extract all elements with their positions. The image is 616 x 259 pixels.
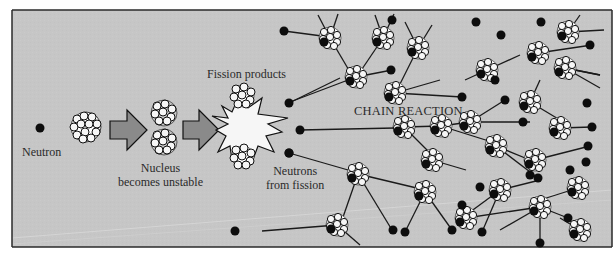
neutron-icon: [389, 226, 398, 235]
neutron-icon: [458, 201, 467, 210]
neutron-icon: [588, 123, 597, 132]
neutron-icon: [583, 99, 592, 108]
split-nucleus-icon: [567, 176, 589, 199]
neutron-icon: [476, 183, 485, 192]
neutron-icon: [537, 18, 546, 27]
neutrons-from-line2: from fission: [266, 178, 324, 192]
split-nucleus-icon: [393, 115, 415, 138]
nucleus-label-line1: Nucleus: [118, 161, 203, 175]
fission-products-label: Fission products: [207, 67, 286, 81]
fission-neutron-icon: [285, 149, 294, 158]
split-nucleus-icon: [527, 41, 549, 64]
neutron-icon: [478, 228, 487, 237]
neutron-icon: [388, 16, 397, 25]
neutron-icon: [497, 31, 506, 40]
split-nucleus-icon: [372, 26, 394, 49]
split-nucleus-icon: [524, 148, 546, 171]
split-nucleus-icon: [557, 20, 579, 43]
neutron-icon: [458, 93, 467, 102]
neutron-icon: [586, 41, 595, 50]
split-nucleus-icon: [384, 81, 406, 104]
neutron-icon: [526, 171, 535, 180]
split-nucleus-icon: [519, 90, 541, 113]
neutron-icon: [387, 66, 396, 75]
neutron-icon: [584, 142, 593, 151]
neutron-label: Neutron: [22, 145, 61, 159]
neutron-icon: [519, 118, 528, 127]
neutrons-from-fission-label: Neutrons from fission: [266, 164, 324, 192]
split-nucleus-icon: [414, 180, 436, 203]
chain-reaction-label: CHAIN REACTION: [354, 104, 463, 118]
neutron-icon: [501, 96, 510, 105]
split-nucleus-icon: [554, 56, 576, 79]
split-nucleus-icon: [489, 178, 511, 201]
neutron-icon: [564, 214, 573, 223]
split-nucleus-icon: [347, 162, 369, 185]
split-nucleus-icon: [319, 26, 341, 49]
split-nucleus-icon: [421, 148, 443, 171]
diagram-background: [12, 10, 612, 247]
split-nucleus-icon: [326, 213, 348, 236]
neutron-icon: [536, 239, 545, 248]
split-nucleus-icon: [549, 116, 571, 139]
split-nucleus-icon: [455, 206, 477, 229]
split-nucleus-icon: [569, 218, 591, 241]
split-nucleus-icon: [485, 134, 507, 157]
neutron-icon: [448, 226, 457, 235]
incoming-neutron-icon: [36, 124, 45, 133]
neutron-icon: [566, 166, 575, 175]
neutron-icon: [491, 76, 500, 85]
nucleus-unstable-label: Nucleus becomes unstable: [118, 161, 203, 189]
fission-neutron-icon: [285, 99, 294, 108]
neutron-icon: [472, 18, 481, 27]
neutron-icon: [534, 174, 543, 183]
fission-neutron-icon: [296, 126, 305, 135]
target-nucleus-icon: [70, 112, 101, 143]
neutrons-from-line1: Neutrons: [266, 164, 324, 178]
split-nucleus-icon: [407, 36, 429, 59]
neutron-icon: [280, 27, 289, 36]
fission-chain-reaction-diagram: [0, 0, 616, 259]
neutron-icon: [582, 158, 591, 167]
neutron-icon: [231, 227, 240, 236]
split-nucleus-icon: [345, 65, 367, 88]
split-nucleus-icon: [529, 195, 551, 218]
neutron-icon: [401, 228, 410, 237]
nucleus-label-line2: becomes unstable: [118, 175, 203, 189]
